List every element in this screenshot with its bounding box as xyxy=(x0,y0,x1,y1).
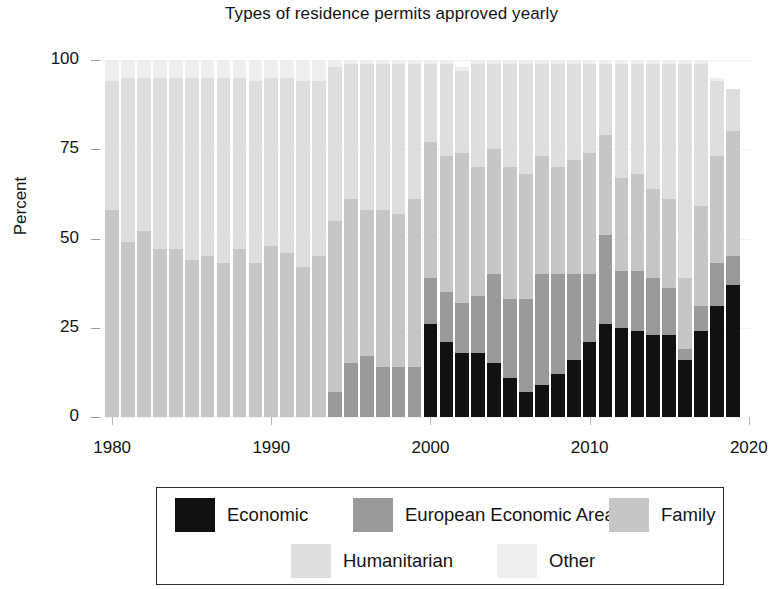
bar-segment-economic xyxy=(583,342,597,417)
bar-segment-other xyxy=(583,60,597,64)
bar-2014 xyxy=(646,60,660,417)
bar-segment-family xyxy=(710,156,724,263)
y-tick-label: 50 xyxy=(17,228,79,248)
bar-1996 xyxy=(360,60,374,417)
bar-segment-family xyxy=(185,260,199,417)
bar-segment-other xyxy=(424,60,438,64)
bar-segment-humanitarian xyxy=(599,64,613,135)
bar-segment-european-economic-area xyxy=(344,363,358,417)
bar-segment-family xyxy=(519,174,533,299)
legend-label: Economic xyxy=(227,504,308,526)
y-tick-mark xyxy=(91,328,100,329)
bar-segment-family xyxy=(646,189,660,278)
bar-segment-other xyxy=(280,60,294,78)
plot-area xyxy=(101,60,752,417)
bar-segment-other xyxy=(487,60,501,64)
bar-2003 xyxy=(471,60,485,417)
legend-label: European Economic Area xyxy=(405,504,615,526)
legend-swatch-icon xyxy=(609,498,649,532)
y-tick-label: 0 xyxy=(17,406,79,426)
bar-2001 xyxy=(440,60,454,417)
bar-segment-humanitarian xyxy=(471,64,485,168)
bar-segment-family xyxy=(503,167,517,299)
bar-2012 xyxy=(615,60,629,417)
bar-segment-humanitarian xyxy=(201,78,215,257)
bar-segment-family xyxy=(551,167,565,274)
bar-segment-other xyxy=(344,60,358,64)
bar-segment-family xyxy=(280,253,294,417)
bar-segment-economic xyxy=(615,328,629,417)
bar-segment-other xyxy=(264,60,278,78)
bar-segment-family xyxy=(471,167,485,296)
bar-1994 xyxy=(328,60,342,417)
bar-segment-other xyxy=(185,60,199,78)
legend-item-family[interactable]: Family xyxy=(609,498,715,532)
bar-1981 xyxy=(121,60,135,417)
legend-item-humanitarian[interactable]: Humanitarian xyxy=(291,544,453,578)
bar-segment-economic xyxy=(503,378,517,417)
bar-segment-family xyxy=(328,221,342,392)
bar-segment-family xyxy=(615,178,629,271)
bar-segment-economic xyxy=(455,353,469,417)
legend-swatch-icon xyxy=(497,544,537,578)
legend-item-economic[interactable]: Economic xyxy=(175,498,308,532)
bar-segment-european-economic-area xyxy=(392,367,406,417)
bar-segment-family xyxy=(249,263,263,417)
bar-segment-european-economic-area xyxy=(662,288,676,334)
bar-segment-family xyxy=(487,149,501,274)
bar-segment-other xyxy=(615,60,629,64)
bar-segment-humanitarian xyxy=(615,64,629,178)
x-tick-mark xyxy=(271,417,272,425)
bar-segment-family xyxy=(344,199,358,363)
bar-segment-other xyxy=(153,60,167,78)
bar-segment-other xyxy=(217,60,231,78)
chart-legend: EconomicEuropean Economic AreaFamily Hum… xyxy=(156,487,724,585)
y-tick-mark xyxy=(91,149,100,150)
bar-segment-family xyxy=(233,249,247,417)
y-tick-label: 100 xyxy=(17,49,79,69)
bar-segment-family xyxy=(121,242,135,417)
bar-segment-humanitarian xyxy=(344,64,358,200)
bar-2006 xyxy=(519,60,533,417)
bar-2017 xyxy=(694,60,708,417)
x-tick-label: 1980 xyxy=(77,438,147,458)
bar-segment-other xyxy=(249,60,263,81)
bar-1984 xyxy=(169,60,183,417)
bar-segment-humanitarian xyxy=(726,89,740,132)
bar-segment-family xyxy=(264,246,278,417)
bar-2018 xyxy=(710,60,724,417)
legend-item-european-economic-area[interactable]: European Economic Area xyxy=(353,498,615,532)
bar-segment-humanitarian xyxy=(233,78,247,249)
bar-segment-other xyxy=(312,60,326,81)
bar-segment-other xyxy=(567,60,581,64)
bar-1997 xyxy=(376,60,390,417)
bar-segment-family xyxy=(631,174,645,270)
legend-swatch-icon xyxy=(291,544,331,578)
bar-segment-european-economic-area xyxy=(678,349,692,360)
bar-1992 xyxy=(296,60,310,417)
bar-segment-other xyxy=(408,60,422,64)
bar-segment-humanitarian xyxy=(185,78,199,260)
x-tick-mark xyxy=(590,417,591,425)
bar-segment-european-economic-area xyxy=(376,367,390,417)
bar-segment-humanitarian xyxy=(312,81,326,256)
legend-item-other[interactable]: Other xyxy=(497,544,595,578)
bar-segment-european-economic-area xyxy=(487,274,501,363)
bar-segment-european-economic-area xyxy=(519,299,533,392)
bar-1993 xyxy=(312,60,326,417)
bar-segment-family xyxy=(599,135,613,235)
bar-segment-family xyxy=(535,156,549,274)
bar-segment-humanitarian xyxy=(567,64,581,160)
bar-segment-other xyxy=(503,60,517,64)
y-tick-mark xyxy=(91,239,100,240)
bar-1998 xyxy=(392,60,406,417)
bar-segment-family xyxy=(217,263,231,417)
bar-segment-humanitarian xyxy=(631,64,645,175)
y-gridline xyxy=(101,417,752,418)
y-tick-label: 25 xyxy=(17,317,79,337)
bar-2000 xyxy=(424,60,438,417)
chart-title: Types of residence permits approved year… xyxy=(0,4,783,24)
bar-segment-humanitarian xyxy=(121,78,135,242)
bar-segment-humanitarian xyxy=(440,64,454,157)
bar-segment-european-economic-area xyxy=(583,274,597,342)
